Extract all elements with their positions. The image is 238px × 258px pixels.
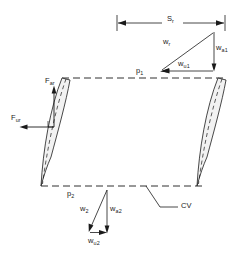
inlet-axial-velocity-arrowhead-icon	[212, 64, 217, 72]
tangential-force-label: Fur	[11, 114, 21, 122]
cv-leader-line	[146, 186, 178, 207]
inlet-pressure-label: p1	[136, 67, 143, 75]
outlet-axial-velocity-label: wa2	[110, 205, 122, 213]
blade-right-outline	[197, 78, 226, 186]
pitch-left-arrowhead-icon	[118, 20, 126, 26]
blade-profile-left	[41, 78, 70, 186]
pitch-label: Sr	[167, 15, 174, 23]
control-volume-label: CV	[181, 202, 192, 210]
axial-force-arrowhead-icon	[52, 86, 57, 94]
outlet-tangential-velocity-label: wu2	[88, 237, 100, 245]
outlet-pressure-label: p2	[67, 190, 74, 198]
diagram-svg	[0, 0, 238, 258]
outlet-relative-velocity-vector	[90, 190, 107, 229]
outlet-relative-velocity-label: w2	[80, 205, 89, 213]
outlet-relative-velocity-arrowhead-icon	[89, 223, 94, 232]
tangential-force-arrowhead-icon	[20, 125, 28, 130]
outlet-velocity-triangle-group	[89, 190, 110, 235]
cv-leader-group	[146, 186, 178, 207]
axial-force-label: Far	[45, 77, 55, 85]
inlet-axial-velocity-label: wa1	[216, 44, 228, 52]
pitch-right-arrowhead-icon	[216, 20, 224, 26]
inlet-tangential-velocity-label: wu1	[178, 60, 190, 68]
blade-profile-right	[197, 78, 226, 186]
blade-left-outline	[41, 78, 70, 186]
figure-canvas: Sr wr wa1 wu1 p1 Far Fur p2 w2 wa2 wu2 C…	[0, 0, 238, 258]
outlet-tangential-velocity-arrowhead-icon	[99, 230, 107, 235]
inlet-relative-velocity-label: wr	[163, 38, 170, 46]
